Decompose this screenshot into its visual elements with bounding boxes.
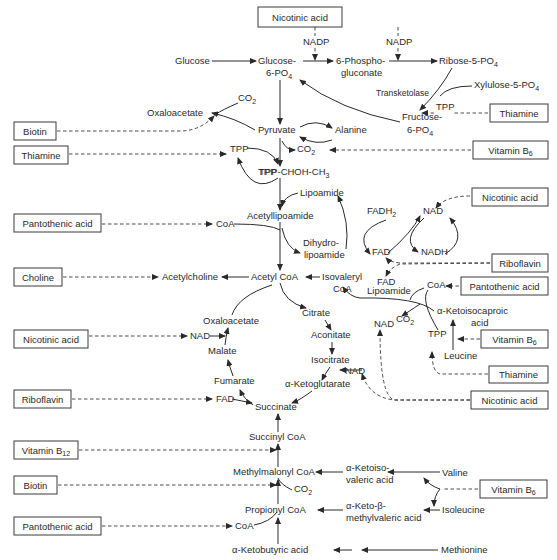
cofactor-co2: CO2​ <box>238 92 256 105</box>
vitamin-box-vitamin-b6-1: Vitamin B6​ <box>473 141 548 159</box>
metabolite-isoleucine: Isoleucine <box>442 504 485 515</box>
metabolite-dihydro: Dihydro- <box>303 237 339 248</box>
metabolite-valine: Valine <box>442 467 468 478</box>
vitamin-box-nicotinic-kg: Nicotinic acid <box>471 391 548 409</box>
vitamin-label: Choline <box>22 272 54 283</box>
metabolite-6-phospho: 6-Phospho- <box>336 55 385 66</box>
vitamin-box-pantothenic-2: Pantothenic acid <box>461 277 548 295</box>
cofactor-nadp: NADP <box>303 36 329 47</box>
vitamin-box-riboflavin-1: Riboflavin <box>492 254 548 272</box>
cofactor-coa: CoA <box>235 520 254 531</box>
cofactor-nad: NAD <box>190 330 210 341</box>
metabolite-methionine: Methionine <box>441 544 487 555</box>
vitamin-box-pantothenic-1: Pantothenic acid <box>14 214 101 232</box>
metabolite-succinyl-coa: Succinyl CoA <box>249 431 306 442</box>
cofactor-transketolase: Transketolase <box>376 88 429 98</box>
cofactor-tpp: TPP <box>258 166 276 177</box>
metabolite-6-po4: 6-PO4​ <box>266 67 292 80</box>
metabolite-gluconate: gluconate <box>341 67 382 78</box>
cofactor-lipoamide: Lipoamide <box>367 285 411 296</box>
vitamin-box-biotin-2: Biotin <box>14 476 57 494</box>
cofactor-nad: NAD <box>374 318 394 329</box>
metabolite-methylvaleric-acid: methylvaleric acid <box>346 512 422 523</box>
cofactor-tpp: TPP <box>428 328 446 339</box>
vitamin-label: Nicotinic acid <box>482 192 538 203</box>
metabolite-isocitrate: Isocitrate <box>311 354 350 365</box>
metabolite-leucine: Leucine <box>444 350 477 361</box>
vitamin-label: Vitamin B6​ <box>491 484 536 497</box>
metabolite-oxaloacetate: Oxaloacetate <box>203 315 259 326</box>
cofactor-co2: CO2​ <box>297 143 315 156</box>
vitamin-label: Nicotinic acid <box>482 395 538 406</box>
metabolite-methylmalonyl-coa: Methylmalonyl CoA <box>233 466 315 477</box>
metabolite-ketobutyric-acid: α-Ketobutyric acid <box>232 544 308 555</box>
vitamin-label: Pantothenic acid <box>22 521 92 532</box>
vitamin-box-nicotinic-top: Nicotinic acid <box>258 7 342 27</box>
metabolite-ketoglutarate: α-Ketoglutarate <box>285 378 350 389</box>
metabolite-fumarate: Fumarate <box>214 375 255 386</box>
vitamin-box-pantothenic-3: Pantothenic acid <box>14 517 101 535</box>
vitamin-box-thiamine-leu: Thiamine <box>489 366 548 383</box>
metabolite-succinate: Succinate <box>255 401 297 412</box>
metabolite-acetyl-coa: Acetyl CoA <box>251 271 299 282</box>
metabolite-lipoamide: lipoamide <box>304 249 345 260</box>
vitamin-box-biotin-1: Biotin <box>14 122 56 140</box>
vitamin-box-riboflavin-2: Riboflavin <box>14 390 71 408</box>
vitamin-box-nicotinic-tca: Nicotinic acid <box>14 330 88 348</box>
metabolite-ketoiso: α-Ketoiso- <box>346 462 390 473</box>
vitamin-box-thiamine-ppp: Thiamine <box>490 104 548 122</box>
vitamin-box-vitamin-b12: Vitamin B12​ <box>14 441 78 459</box>
metabolite-keto: α-Keto-β- <box>346 500 386 511</box>
cofactor-tpp: TPP <box>230 143 248 154</box>
vitamin-box-vitamin-b6-3: Vitamin B6​ <box>480 480 547 498</box>
metabolite-glucose: Glucose <box>175 55 210 66</box>
vitamin-label: Thiamine <box>499 108 538 119</box>
metabolite-ribose-5-po4: Ribose-5-PO4​ <box>439 55 498 68</box>
vitamin-label: Thiamine <box>21 150 60 161</box>
metabolite-6-po4: 6-PO4​ <box>407 124 433 137</box>
vitamin-coenzyme-metabolic-pathway-diagram: Nicotinic acidThiamineBiotinThiamineVita… <box>0 0 557 560</box>
metabolite-acetyllipoamide: Acetyllipoamide <box>247 210 314 221</box>
metabolite-xylulose-5-po4: Xylulose-5-PO4​ <box>474 79 539 92</box>
metabolite-propionyl-coa: Propionyl CoA <box>245 504 306 515</box>
vitamin-label: Riboflavin <box>499 258 541 269</box>
cofactor-fad: FAD <box>372 246 391 257</box>
cofactor-nad: NAD <box>345 365 365 376</box>
metabolite-alanine: Alanine <box>335 124 367 135</box>
vitamin-label: Pantothenic acid <box>22 218 92 229</box>
cofactor-nad: NAD <box>423 205 443 216</box>
vitamin-label: Riboflavin <box>22 394 64 405</box>
metabolite-fructose: Fructose- <box>402 111 442 122</box>
metabolite-pyruvate: Pyruvate <box>258 124 296 135</box>
vitamin-box-thiamine-pdh: Thiamine <box>14 146 68 164</box>
metabolite-glucose: Glucose- <box>258 55 296 66</box>
metabolite-lipoamide: Lipoamide <box>300 187 344 198</box>
vitamin-label: Nicotinic acid <box>272 12 328 23</box>
cofactor-fadh2: FADH2​ <box>367 205 396 218</box>
vitamin-label: Biotin <box>24 480 48 491</box>
cofactor-nadp: NADP <box>386 36 412 47</box>
metabolite-oxaloacetate: Oxaloacetate <box>147 107 203 118</box>
vitamin-label: Pantothenic acid <box>469 281 539 292</box>
cofactor-co2: CO2​ <box>294 483 312 496</box>
vitamin-box-choline: Choline <box>14 268 62 286</box>
cofactor-tpp: TPP <box>436 101 454 112</box>
vitamin-box-vitamin-b6-2: Vitamin B6​ <box>481 330 548 348</box>
cofactor-nadh: NADH <box>421 246 448 257</box>
metabolite-acetylcholine: Acetylcholine <box>162 271 218 282</box>
cofactor-co2: CO2​ <box>396 313 414 326</box>
vitamin-box-nicotinic-pdh: Nicotinic acid <box>472 188 548 206</box>
metabolite-citrate: Citrate <box>302 307 330 318</box>
metabolite-acid: acid <box>471 317 488 328</box>
metabolite-valeric-acid: valeric acid <box>346 474 394 485</box>
metabolite-isovaleryl: Isovaleryl <box>322 271 362 282</box>
metabolite-coa: CoA <box>333 283 352 294</box>
vitamin-label: Biotin <box>23 126 47 137</box>
vitamin-label: Thiamine <box>499 369 538 380</box>
vitamin-label: Vitamin B6​ <box>488 145 533 158</box>
metabolite-aconitate: Aconitate <box>311 329 351 340</box>
cofactor-fad: FAD <box>216 393 235 404</box>
cofactor-coa: CoA <box>216 218 235 229</box>
vitamin-label: Vitamin B6​ <box>492 334 537 347</box>
metabolite-ketoisocaproic: α-Ketoisocaproic <box>437 305 508 316</box>
